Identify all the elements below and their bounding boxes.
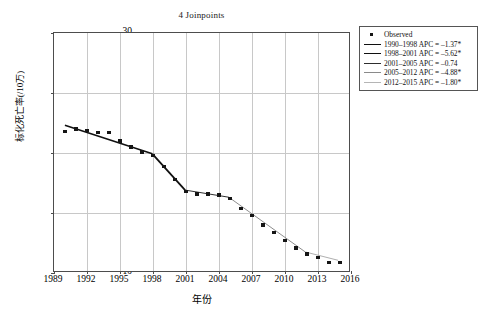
x-tick-label: 2016 [330,275,370,285]
observed-point [206,192,209,195]
observed-point [228,197,231,200]
observed-point [239,207,242,210]
joinpoint-chart-figure: 4 Joinpoints 标化死亡率(/10万) 1015202530 1989… [0,0,489,317]
fitted-segment [65,125,152,154]
observed-point [316,256,319,259]
legend-marker-square-icon [363,30,382,39]
legend-label: 2001–2005 APC = –0.74 [384,59,458,68]
observed-point [338,261,341,264]
legend-line-icon [363,78,382,87]
joinpoint-fitted-lines [54,33,349,271]
observed-point [96,131,99,134]
observed-point [305,252,308,255]
observed-point [195,192,198,195]
legend-item: 2012–2015 APC = –1.80* [363,78,474,88]
line-icon [364,44,381,45]
observed-point [129,145,132,148]
y-axis-label: 标化死亡率(/10万) [13,37,26,177]
observed-point [118,139,121,142]
legend-item: 2001–2005 APC = –0.74 [363,59,474,69]
observed-point [327,261,330,264]
x-axis-label: 年份 [53,291,350,306]
observed-point [261,223,264,226]
chart-title: 4 Joinpoints [53,10,350,20]
fitted-segment [229,197,305,252]
observed-point [107,131,110,134]
legend-label: 1990–1998 APC = –1.37* [384,40,461,49]
legend-label: 2005–2012 APC = –4.88* [384,68,461,77]
observed-point [217,193,220,196]
legend-label: Observed [384,30,412,39]
legend-item: 1998–2001 APC = –5.62* [363,49,474,59]
legend-label: 2012–2015 APC = –1.80* [384,78,461,87]
observed-point [63,130,66,133]
legend-item: 2005–2012 APC = –4.88* [363,68,474,78]
observed-point [272,231,275,234]
observed-point [140,150,143,153]
observed-point [294,246,297,249]
line-icon [364,82,381,83]
observed-point [74,127,77,130]
observed-point [162,165,165,168]
plot-area [53,32,350,272]
line-icon [364,63,381,64]
observed-point [173,178,176,181]
observed-point [85,129,88,132]
legend-line-icon [363,68,382,77]
legend-line-icon [363,49,382,58]
fitted-segment [152,154,185,190]
line-icon [364,72,381,73]
observed-point [250,214,253,217]
square-icon [370,33,373,36]
legend-item: 1990–1998 APC = –1.37* [363,40,474,50]
legend-item: Observed [363,30,474,40]
observed-point [151,154,154,157]
legend-line-icon [363,59,382,68]
observed-point [184,190,187,193]
fitted-segment [305,252,338,260]
observed-point [283,239,286,242]
line-icon [364,53,381,54]
legend-line-icon [363,40,382,49]
legend-label: 1998–2001 APC = –5.62* [384,49,461,58]
legend: Observed1990–1998 APC = –1.37*1998–2001 … [359,26,478,91]
